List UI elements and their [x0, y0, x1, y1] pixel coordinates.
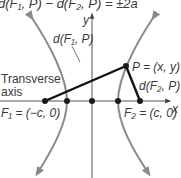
focus-f2-label: F₂ = (c, 0)	[124, 106, 177, 120]
point-p	[123, 63, 129, 69]
right-branch	[118, 18, 153, 174]
hyperbola-diagram: d(F₁, P) − d(F₂, P) = ±2a y x d(F₁, P) P…	[0, 0, 181, 178]
vertex-v2-point	[115, 98, 121, 104]
vertex-v1-point	[64, 98, 70, 104]
y-axis-label: y	[82, 13, 90, 27]
point-p-label: P = (x, y)	[132, 60, 180, 74]
axis-label: axis	[1, 85, 22, 99]
origin-point	[89, 98, 95, 104]
definition-formula: d(F₁, P) − d(F₂, P) = ±2a	[0, 0, 138, 11]
focus-f1-label: F₁ = (−c, 0)	[1, 106, 60, 120]
transverse-label: Transverse	[1, 72, 61, 86]
focus-f2-point	[137, 98, 143, 104]
distance-f2-p-label: d(F₂, P)	[139, 79, 180, 93]
leader-line	[72, 46, 80, 62]
focus-f1-point	[42, 98, 48, 104]
distance-f1-p-label: d(F₁, P)	[53, 32, 93, 46]
